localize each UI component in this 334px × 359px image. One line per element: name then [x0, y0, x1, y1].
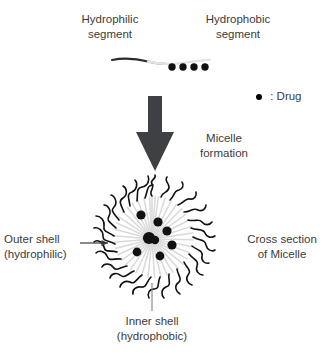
drug-dot-icon: [156, 252, 165, 261]
thick-down-arrow-icon: [136, 96, 174, 171]
drug-dot-icon: [190, 63, 197, 70]
drug-dot-icon: [151, 236, 159, 244]
drug-dot-icon: [162, 226, 171, 235]
hydrophobic-chain-segment: [148, 60, 210, 64]
micelle-diagram: Hydrophilic segment Hydrophobic segment …: [0, 0, 334, 359]
drug-dot-icon: [133, 248, 142, 257]
drug-dot-icon: [167, 240, 176, 249]
drug-dot-icon: [201, 63, 208, 70]
polymer-chain-unimer: [112, 59, 210, 71]
drug-dot-icon: [136, 210, 145, 219]
drug-dot-icon: [153, 217, 162, 226]
drug-dot-icon: [179, 63, 186, 70]
drug-dot-icon: [168, 63, 175, 70]
micelle-cross-section: [94, 175, 215, 298]
diagram-artwork: [0, 0, 334, 359]
